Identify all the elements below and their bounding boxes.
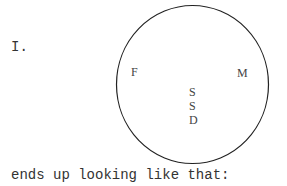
label-f: F xyxy=(131,66,138,78)
label-m: M xyxy=(237,67,248,79)
circle-diagram xyxy=(0,0,287,186)
caption: ends up looking like that: xyxy=(11,168,229,182)
label-s1: S xyxy=(189,86,196,98)
label-s2: S xyxy=(189,100,196,112)
label-d: D xyxy=(189,114,198,126)
